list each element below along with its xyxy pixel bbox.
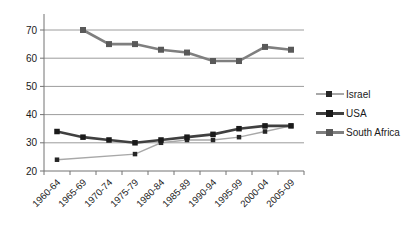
data-point-marker bbox=[211, 138, 216, 143]
y-axis-label: 60 bbox=[26, 53, 38, 64]
data-point-marker bbox=[237, 135, 242, 140]
data-point-marker bbox=[263, 129, 268, 134]
data-point-marker bbox=[236, 58, 242, 64]
y-axis-label: 20 bbox=[26, 166, 38, 177]
x-axis-label: 2005-09 bbox=[264, 177, 296, 209]
legend-label: Israel bbox=[346, 89, 370, 100]
data-point-marker bbox=[132, 41, 138, 47]
y-axis-label: 30 bbox=[26, 137, 38, 148]
legend-label: USA bbox=[346, 108, 367, 119]
data-point-marker bbox=[158, 137, 164, 143]
legend-item-usa: USA bbox=[316, 106, 400, 120]
data-point-marker bbox=[210, 58, 216, 64]
data-point-marker bbox=[106, 41, 112, 47]
line-chart: 2030405060701960-641965-691970-741975-79… bbox=[0, 0, 408, 226]
data-point-marker bbox=[236, 126, 242, 132]
legend-item-south-africa: South Africa bbox=[316, 125, 400, 139]
data-point-marker bbox=[262, 123, 268, 129]
israel-line-swatch-icon bbox=[316, 89, 344, 99]
data-point-marker bbox=[288, 123, 294, 129]
usa-line-swatch-icon bbox=[316, 108, 344, 118]
data-point-marker bbox=[184, 50, 190, 56]
data-point-marker bbox=[288, 47, 294, 53]
data-point-marker bbox=[132, 140, 138, 146]
data-point-marker bbox=[54, 129, 60, 135]
data-point-marker bbox=[80, 134, 86, 140]
legend-item-israel: Israel bbox=[316, 87, 400, 101]
data-point-marker bbox=[210, 132, 216, 138]
data-point-marker bbox=[262, 44, 268, 50]
series-line-usa bbox=[57, 126, 291, 143]
data-point-marker bbox=[133, 152, 138, 157]
legend-label: South Africa bbox=[346, 127, 400, 138]
legend: Israel USA South Africa bbox=[316, 87, 400, 139]
data-point-marker bbox=[80, 27, 86, 33]
y-axis-label: 50 bbox=[26, 81, 38, 92]
data-point-marker bbox=[55, 157, 60, 162]
series-line-south-africa bbox=[83, 30, 291, 61]
south-africa-line-swatch-icon bbox=[316, 127, 344, 137]
y-axis-label: 70 bbox=[26, 25, 38, 36]
data-point-marker bbox=[106, 137, 112, 143]
y-axis-label: 40 bbox=[26, 109, 38, 120]
data-point-marker bbox=[184, 134, 190, 140]
data-point-marker bbox=[158, 47, 164, 53]
